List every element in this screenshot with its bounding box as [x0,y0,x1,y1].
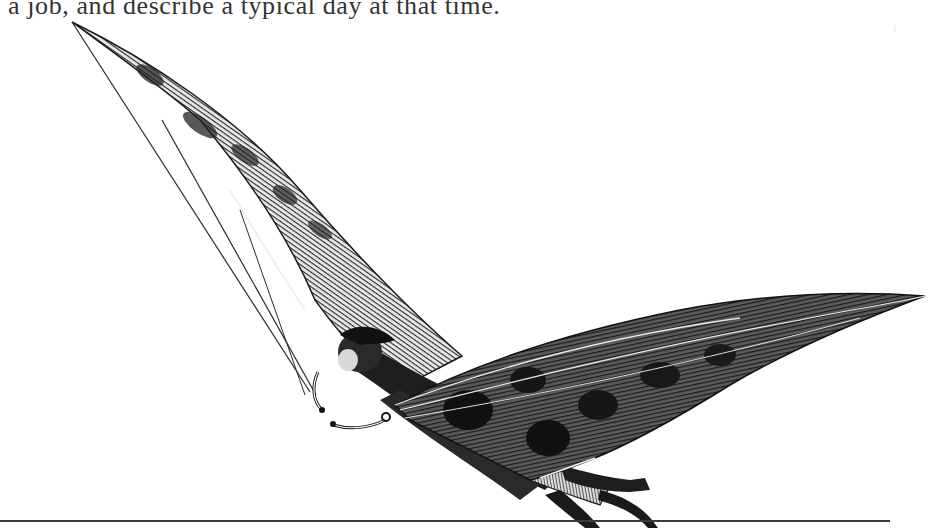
left-wing [72,22,462,395]
right-wing [395,294,925,480]
ground-line [0,520,890,522]
flying-man-engraving [0,0,930,529]
paper-speckle [893,25,896,32]
